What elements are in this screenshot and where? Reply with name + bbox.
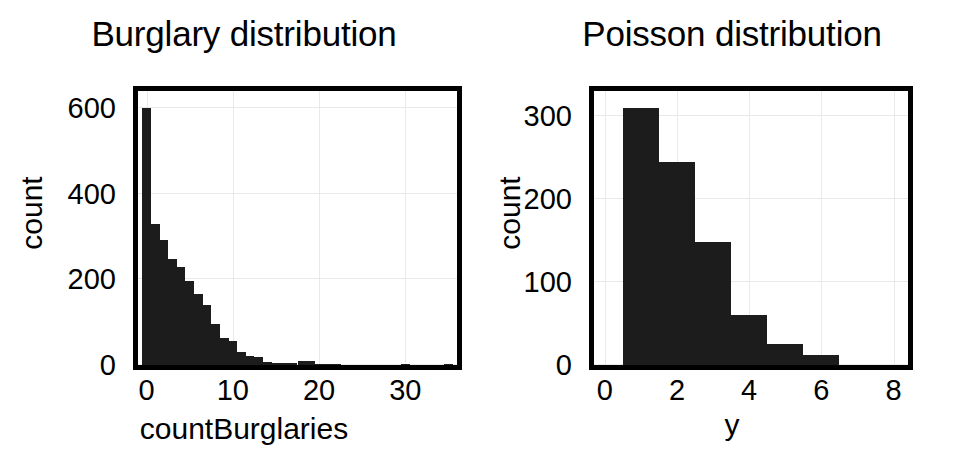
grid-line-vertical [233, 91, 234, 365]
panel-poisson: Poisson distribution count 0100200300 02… [488, 0, 976, 475]
histogram-bar [220, 338, 229, 365]
histogram-bar [332, 364, 341, 365]
histogram-bar [731, 315, 767, 365]
histogram-bar [767, 344, 803, 365]
histogram-bar [246, 356, 255, 365]
histogram-bar [194, 294, 203, 365]
y-tick-label: 200 [488, 184, 584, 213]
plot-area-poisson [594, 91, 908, 365]
y-axis-title-burglary: count [15, 153, 49, 273]
x-tick-label: 2 [669, 376, 685, 405]
histogram-bar [142, 108, 151, 365]
histogram-bar [263, 362, 272, 365]
histogram-bar [229, 341, 238, 365]
y-tick-label: 600 [0, 94, 128, 123]
x-tick-label: 10 [217, 376, 249, 405]
histogram-bar [315, 364, 324, 365]
grid-line-vertical [319, 91, 320, 365]
x-tick-label: 0 [139, 376, 155, 405]
histogram-bar [280, 363, 289, 365]
histogram-bar [623, 108, 659, 365]
grid-line-vertical [821, 91, 822, 365]
y-tick-label: 300 [488, 101, 584, 130]
histogram-bar [444, 364, 453, 365]
histogram-bar [272, 363, 281, 365]
histogram-bar [185, 281, 194, 365]
x-tick-label: 30 [389, 376, 421, 405]
histogram-bar [254, 357, 263, 365]
y-tick-label: 200 [0, 265, 128, 294]
grid-line-horizontal [138, 193, 457, 194]
y-tick-label: 0 [488, 351, 584, 380]
histogram-bar [177, 267, 186, 365]
grid-line-vertical [405, 91, 406, 365]
grid-line-horizontal [138, 278, 457, 279]
histogram-bar [237, 352, 246, 365]
histogram-bar [695, 242, 731, 365]
panel-title-burglary: Burglary distribution [0, 12, 488, 56]
y-tick-label: 0 [0, 351, 128, 380]
histogram-bar [168, 259, 177, 365]
histogram-bar [203, 305, 212, 365]
histogram-bar [803, 355, 839, 365]
panel-burglary: Burglary distribution count 0200400600 0… [0, 0, 488, 475]
histogram-bar [323, 364, 332, 365]
grid-line-vertical [605, 91, 606, 365]
panel-title-poisson: Poisson distribution [488, 12, 976, 56]
histogram-figure: Burglary distribution count 0200400600 0… [0, 0, 976, 475]
x-axis-title-burglary: countBurglaries [0, 412, 488, 446]
x-tick-label: 6 [813, 376, 829, 405]
histogram-bar [289, 363, 298, 365]
plot-area-burglary [138, 91, 457, 365]
x-tick-label: 8 [885, 376, 901, 405]
x-axis-title-poisson: y [488, 408, 976, 442]
histogram-bar [151, 224, 160, 365]
histogram-bar [659, 162, 695, 365]
x-tick-label: 4 [741, 376, 757, 405]
histogram-bar [160, 240, 169, 365]
histogram-bar [211, 324, 220, 365]
x-tick-label: 0 [597, 376, 613, 405]
histogram-bar [306, 361, 315, 365]
plot-frame-burglary [133, 86, 462, 370]
x-tick-label: 20 [303, 376, 335, 405]
histogram-bar [401, 364, 410, 365]
y-tick-label: 100 [488, 267, 584, 296]
histogram-bar [298, 361, 307, 365]
plot-frame-poisson [589, 86, 913, 370]
y-tick-label: 400 [0, 179, 128, 208]
grid-line-vertical [894, 91, 895, 365]
grid-line-horizontal [138, 107, 457, 108]
